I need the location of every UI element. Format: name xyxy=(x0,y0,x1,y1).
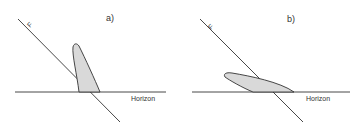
panel-a: a) F Horizon xyxy=(15,13,166,122)
line-label-f: F xyxy=(207,23,215,31)
panel-label: a) xyxy=(106,13,114,23)
inclined-line-f xyxy=(200,19,303,122)
inclined-line-f xyxy=(18,19,120,122)
horizon-label: Horizon xyxy=(131,95,155,102)
panel-label: b) xyxy=(287,14,295,24)
horizon-label: Horizon xyxy=(306,95,330,102)
lobe-shape xyxy=(73,44,100,92)
lobe-shape xyxy=(224,73,294,92)
diagram-canvas: a) F Horizon b) F Horizon xyxy=(0,0,358,130)
panel-b: b) F Horizon xyxy=(192,14,350,122)
